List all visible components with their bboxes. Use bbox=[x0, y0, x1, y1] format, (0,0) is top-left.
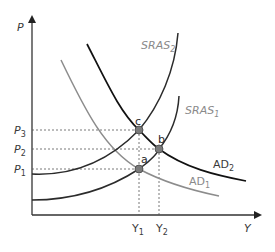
ad1-label: AD1 bbox=[189, 175, 210, 190]
point-c-label: c bbox=[135, 115, 141, 128]
sras2-label: SRAS2 bbox=[141, 39, 175, 54]
sras1-label: SRAS1 bbox=[185, 104, 219, 119]
point-a-label: a bbox=[141, 153, 148, 166]
y2-label: Y2 bbox=[155, 222, 168, 237]
svg-text:AD1: AD1 bbox=[189, 175, 210, 190]
y-axis-label: Y bbox=[244, 222, 252, 235]
svg-text:SRAS2: SRAS2 bbox=[141, 39, 175, 54]
p3-label: P3 bbox=[14, 124, 26, 139]
svg-text:AD2: AD2 bbox=[213, 158, 234, 173]
point-b-label: b bbox=[158, 133, 165, 146]
y1-label: Y1 bbox=[131, 222, 144, 237]
p-axis-label: P bbox=[17, 21, 24, 34]
point-b-marker bbox=[155, 145, 163, 153]
ad2-label: AD2 bbox=[213, 158, 234, 173]
svg-text:Y1: Y1 bbox=[131, 222, 144, 237]
ad-as-diagram: c b a P Y P3 P2 P1 Y1 Y2 SRAS2 SRAS1 AD2… bbox=[0, 0, 275, 252]
svg-text:P2: P2 bbox=[14, 143, 26, 158]
svg-text:P3: P3 bbox=[14, 124, 26, 139]
svg-text:SRAS1: SRAS1 bbox=[185, 104, 219, 119]
p1-label: P1 bbox=[14, 163, 26, 178]
point-a-marker bbox=[135, 165, 143, 173]
p2-label: P2 bbox=[14, 143, 26, 158]
svg-text:P1: P1 bbox=[14, 163, 26, 178]
svg-text:Y2: Y2 bbox=[155, 222, 168, 237]
